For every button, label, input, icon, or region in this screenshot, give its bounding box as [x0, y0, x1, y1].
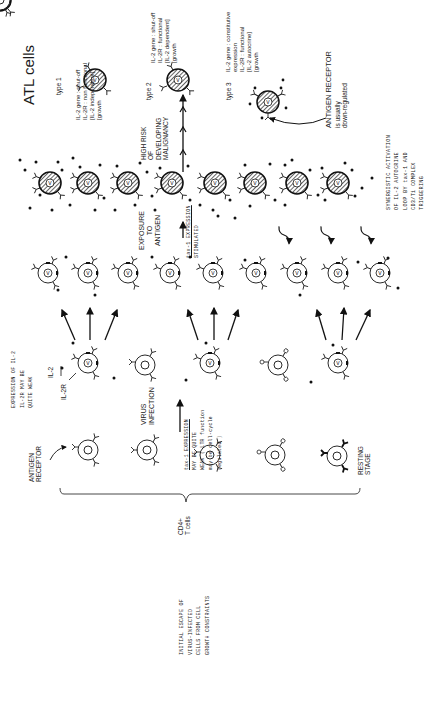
virus-infection-label: VIRUS INFECTION	[140, 387, 156, 425]
atl-type2-cell: V	[159, 62, 194, 95]
atl-type3-cell: V	[249, 79, 288, 120]
type1-notes: IL-2 gene : shut-off IL-2R : non functio…	[75, 63, 103, 120]
high-risk-label: HIGH RISK OF DEVELOPING MALIGNANCY	[140, 117, 170, 160]
antigen-receptor-label: ANTIGEN RECEPTOR	[28, 446, 43, 482]
expression-il2-note: EXPRESSION OF IL-2 IL-2R MAY BE QUITE WE…	[10, 351, 36, 408]
curved-arrow	[270, 118, 326, 124]
il2-label: IL-2	[47, 367, 54, 378]
type3-notes: IL-2 gene : constitutive expression IL-2…	[225, 12, 259, 72]
exposure-label: EXPOSURE TO ANTIGEN	[138, 211, 162, 250]
synergistic-note: SYNERGISTIC ACTIVATION OF IL-2 AUTOCRINE…	[385, 135, 427, 210]
cd4-brace	[60, 488, 360, 502]
diagram-graphics: V V V V	[0, 0, 442, 701]
early-infected-cells	[71, 346, 349, 379]
type1-label: type 1	[55, 77, 62, 95]
initial-escape-note: INITIAL ESCAPE OF VIRUS-INFECTED CELLS F…	[178, 596, 212, 655]
wavy-arrows	[277, 225, 372, 244]
il2r-label: IL-2R	[60, 384, 67, 400]
resting-stage-label: RESTING STAGE	[357, 446, 372, 475]
type3-label: type 3	[225, 82, 232, 100]
antigen-receptor-note: ANTIGEN RECEPTOR is usually down-regulat…	[325, 51, 349, 128]
proliferation-arrows	[62, 308, 370, 340]
type2-label: type 2	[145, 82, 152, 100]
diagram-title: ATL cells	[20, 45, 37, 105]
cd4-tcells-label: CD4+ T cells	[177, 516, 192, 535]
type2-notes: IL-2 gene : shut-off IL-2R : functional …	[150, 13, 178, 63]
tax-weak-note: tax-1 EXPRESSION MAY BE QUITE WEAK ( LTR…	[183, 410, 224, 470]
tax-stimulated-note: tax-1 EXPRESSION STIMULATED	[185, 205, 201, 258]
